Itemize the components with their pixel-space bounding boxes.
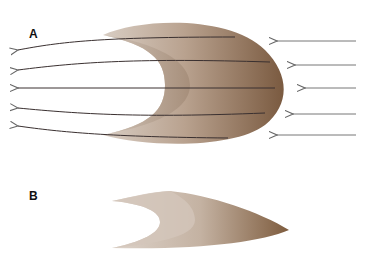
incoming-arrows: [277, 41, 356, 135]
diagram-canvas: [0, 0, 381, 267]
crescent-shape-a: [103, 23, 284, 144]
crescent-shape-b: [112, 191, 289, 248]
